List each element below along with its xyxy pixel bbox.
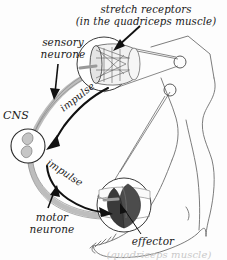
label-motor-neurone-line2: neurone [30, 223, 75, 235]
spindle-site-marker [174, 56, 186, 68]
motor-end-plate-detail [97, 178, 151, 232]
label-motor-neurone-line1: motor [36, 211, 68, 223]
label-sensory-neurone: sensory neurone [26, 36, 100, 60]
label-stretch-receptors: stretch receptors (in the quadriceps mus… [68, 4, 224, 28]
label-motor-neurone: motor neurone [14, 211, 90, 235]
reflex-arc-diagram: stretch receptors (in the quadriceps mus… [0, 0, 227, 260]
label-stretch-receptors-line2: (in the quadriceps muscle) [68, 16, 224, 28]
label-effector-sublabel: (quadriceps muscle) [100, 249, 218, 260]
label-effector: effector [118, 235, 188, 247]
label-sensory-neurone-line1: sensory [42, 36, 84, 48]
label-stretch-receptors-line1: stretch receptors [101, 4, 192, 15]
cns-cell-bodies [11, 129, 45, 163]
label-sensory-neurone-line2: neurone [41, 48, 86, 60]
label-cns: CNS [3, 110, 29, 122]
